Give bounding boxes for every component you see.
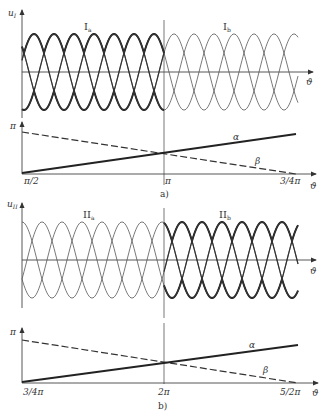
panel-b: uII ϑ IIa IIb π ϑ α β 3/4π 2π 5/2π b) xyxy=(7,199,319,411)
y-axis-label-a: uI xyxy=(8,8,17,19)
region-label-IIa: IIa xyxy=(83,209,95,221)
diagram-canvas: uI ϑ Ia Ib π ϑ α β π/2 π 3/4π a) uII xyxy=(0,0,326,419)
tick-label-a-2: 3/4π xyxy=(280,176,301,186)
lower-y-label-a: π xyxy=(9,121,17,131)
region-label-IIb: IIb xyxy=(219,209,231,221)
beta-label-b: β xyxy=(262,365,268,375)
upper-waveform-a: uI ϑ Ia Ib xyxy=(8,8,313,185)
beta-label-a: β xyxy=(254,156,260,166)
lower-x-label-b: ϑ xyxy=(312,388,319,398)
lower-x-label-a: ϑ xyxy=(310,181,317,191)
panel-a: uI ϑ Ia Ib π ϑ α β π/2 π 3/4π a) xyxy=(8,8,317,199)
alpha-line-b xyxy=(22,345,298,382)
caption-a: a) xyxy=(160,189,169,199)
tick-label-b-2: 5/2π xyxy=(280,387,301,397)
alpha-label-a: α xyxy=(233,132,239,142)
upper-waveform-b: uII ϑ IIa IIb xyxy=(7,199,317,318)
region-label-Ia: Ia xyxy=(84,21,92,33)
tick-label-b-1: 2π xyxy=(157,387,171,397)
lower-angle-plot-a: π ϑ α β π/2 π 3/4π a) xyxy=(9,121,317,199)
x-axis-label-b: ϑ xyxy=(310,266,317,276)
caption-b: b) xyxy=(158,401,167,411)
tick-label-a-0: π/2 xyxy=(23,176,39,186)
y-axis-label-b: uII xyxy=(7,199,18,210)
tick-label-b-0: 3/4π xyxy=(23,387,44,397)
x-axis-label-a: ϑ xyxy=(306,77,313,87)
tick-label-a-1: π xyxy=(164,176,172,186)
alpha-label-b: α xyxy=(249,340,255,350)
lower-angle-plot-b: π ϑ α β 3/4π 2π 5/2π b) xyxy=(9,323,319,411)
region-label-Ib: Ib xyxy=(223,21,231,33)
lower-y-label-b: π xyxy=(9,327,17,337)
